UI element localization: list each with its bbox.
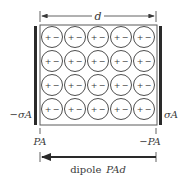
svg-text:+: + (45, 81, 52, 90)
dipole-molecule: +− (134, 27, 155, 48)
left-plate-charge-label: −σA (10, 109, 32, 120)
svg-text:−: − (99, 81, 106, 90)
svg-text:−: − (99, 105, 106, 114)
svg-text:−: − (76, 105, 83, 114)
dipole-molecule: +− (42, 75, 63, 96)
dimension-d: d (40, 10, 156, 23)
svg-text:+: + (137, 81, 144, 90)
svg-text:+: + (68, 81, 75, 90)
svg-text:+: + (91, 81, 98, 90)
svg-text:+: + (114, 81, 121, 90)
dipole-molecule: +− (88, 51, 109, 72)
dipole-molecule: +− (111, 75, 132, 96)
svg-text:−: − (122, 57, 129, 66)
dipole-molecule: +− (65, 27, 86, 48)
svg-text:−: − (145, 57, 152, 66)
svg-text:−: − (122, 105, 129, 114)
dipole-molecule: +− (111, 99, 132, 120)
dimension-label: d (94, 10, 101, 23)
svg-text:−: − (145, 33, 152, 42)
svg-text:−: − (76, 33, 83, 42)
dipole-label: dipolePAd (70, 164, 126, 175)
svg-text:+: + (114, 57, 121, 66)
svg-text:+: + (114, 105, 121, 114)
svg-text:−: − (145, 105, 152, 114)
svg-text:+: + (91, 105, 98, 114)
dipole-molecule: +− (111, 51, 132, 72)
dipole-molecule: +− (42, 51, 63, 72)
right-surface-charge-label: −PA (139, 136, 160, 147)
svg-text:+: + (91, 57, 98, 66)
dielectric-diagram: d +−+−+−+−+−+−+−+−+−+−+−+−+−+−+−+−+−+−+−… (0, 0, 182, 179)
dipole-molecule: +− (88, 99, 109, 120)
svg-text:+: + (91, 33, 98, 42)
svg-text:+: + (137, 57, 144, 66)
svg-text:+: + (137, 105, 144, 114)
svg-text:−: − (53, 57, 60, 66)
svg-text:−: − (145, 81, 152, 90)
svg-text:−: − (122, 81, 129, 90)
svg-text:−: − (53, 105, 60, 114)
dipole-molecule: +− (65, 75, 86, 96)
dipole-arrow (40, 152, 156, 162)
dipole-molecule: +− (134, 99, 155, 120)
svg-text:−: − (76, 81, 83, 90)
svg-text:+: + (68, 57, 75, 66)
svg-text:−: − (122, 33, 129, 42)
dipole-molecule: +− (134, 75, 155, 96)
dipole-molecule: +− (65, 99, 86, 120)
svg-text:−: − (99, 57, 106, 66)
svg-text:−: − (76, 57, 83, 66)
svg-text:+: + (114, 33, 121, 42)
svg-text:−: − (53, 81, 60, 90)
dipole-molecule: +− (65, 51, 86, 72)
svg-text:+: + (45, 57, 52, 66)
svg-text:+: + (68, 105, 75, 114)
svg-text:+: + (68, 33, 75, 42)
svg-text:+: + (137, 33, 144, 42)
molecule-grid: +−+−+−+−+−+−+−+−+−+−+−+−+−+−+−+−+−+−+−+− (42, 27, 155, 120)
dipole-molecule: +− (111, 27, 132, 48)
dipole-molecule: +− (88, 27, 109, 48)
svg-text:+: + (45, 105, 52, 114)
svg-text:+: + (45, 33, 52, 42)
dipole-molecule: +− (42, 99, 63, 120)
left-plate (34, 26, 37, 125)
svg-text:−: − (53, 33, 60, 42)
dipole-molecule: +− (134, 51, 155, 72)
svg-text:−: − (99, 33, 106, 42)
dipole-molecule: +− (42, 27, 63, 48)
left-surface-charge-label: PA (32, 136, 46, 147)
right-plate-charge-label: σA (164, 109, 178, 120)
dipole-molecule: +− (88, 75, 109, 96)
right-plate (159, 26, 162, 125)
